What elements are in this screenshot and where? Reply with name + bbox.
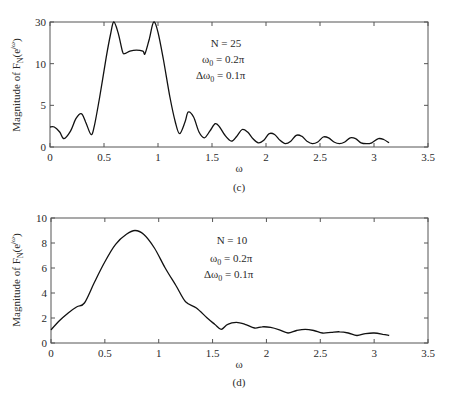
magnitude-curve xyxy=(51,231,389,336)
svg-text:N = 25: N = 25 xyxy=(211,37,242,49)
y-tick-label: 6 xyxy=(42,262,48,274)
y-tick-label: 10 xyxy=(35,58,47,70)
x-tick-label: 2 xyxy=(263,151,269,163)
x-axis-label: ω xyxy=(235,162,242,174)
parameter-annotation: N = 25 ω0 = 0.2π Δω0 = 0.1π xyxy=(196,37,246,84)
svg-text:N = 10: N = 10 xyxy=(217,234,248,246)
y-tick-label: 5 xyxy=(41,99,47,111)
y-tick-label: 0 xyxy=(41,141,47,153)
y-tick-label: 30 xyxy=(35,16,47,28)
x-tick-label: 2.5 xyxy=(313,151,327,163)
svg-text:ω0 = 0.2π: ω0 = 0.2π xyxy=(210,252,253,267)
x-tick-label: 0.5 xyxy=(98,347,112,359)
y-tick-label: 0 xyxy=(42,337,48,349)
y-tick-label: 10 xyxy=(36,212,48,224)
x-tick-label: 1.5 xyxy=(206,347,220,359)
x-tick-label: 3.5 xyxy=(421,347,435,359)
x-tick-label: 1 xyxy=(155,151,161,163)
x-axis-label: ω xyxy=(235,358,242,370)
y-tick-label: 4 xyxy=(42,287,48,299)
x-tick-label: 1.5 xyxy=(205,151,219,163)
svg-text:ω0 = 0.2π: ω0 = 0.2π xyxy=(202,53,245,68)
x-tick-label: 1 xyxy=(156,347,162,359)
x-tick-label: 2 xyxy=(264,347,270,359)
figure: 00.511.522.533.5 051030 ω (c) Magnitude … xyxy=(0,0,456,405)
svg-text:Δω0 = 0.1π: Δω0 = 0.1π xyxy=(204,268,254,283)
y-axis-label: Magnitude of FN(ejω) xyxy=(9,233,25,327)
x-tick-label: 0 xyxy=(48,347,54,359)
y-tick-label: 8 xyxy=(42,237,48,249)
x-tick-label: 2.5 xyxy=(313,347,327,359)
panel-caption: (c) xyxy=(233,181,246,194)
y-tick-label: 2 xyxy=(42,312,48,324)
x-tick-label: 3 xyxy=(371,347,377,359)
x-tick-label: 0.5 xyxy=(97,151,111,163)
parameter-annotation: N = 10 ω0 = 0.2π Δω0 = 0.1π xyxy=(204,234,254,283)
chart-panel-d: 00.511.522.533.5 0246810 ω (d) Magnitude… xyxy=(9,212,435,389)
x-tick-label: 3.5 xyxy=(421,151,435,163)
x-tick-label: 0 xyxy=(47,151,53,163)
svg-text:Δω0 = 0.1π: Δω0 = 0.1π xyxy=(196,69,246,84)
y-axis-label: Magnitude of FN(ejω) xyxy=(9,38,25,132)
panel-caption: (d) xyxy=(233,376,246,389)
x-tick-label: 3 xyxy=(371,151,377,163)
chart-panel-c: 00.511.522.533.5 051030 ω (c) Magnitude … xyxy=(9,16,435,194)
